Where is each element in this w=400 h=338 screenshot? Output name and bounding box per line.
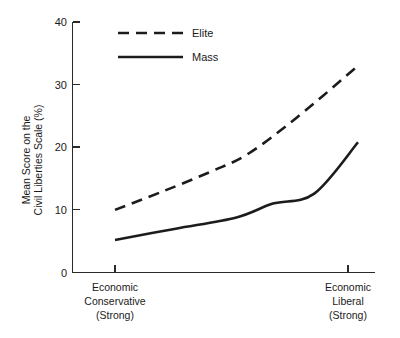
y-axis-ticks: 40 30 20 10 0 bbox=[55, 16, 80, 279]
chart-series-group bbox=[115, 66, 358, 240]
x-category-left-line3: (Strong) bbox=[96, 309, 134, 321]
line-chart: 40 30 20 10 0 Mean Score on the Civil Li… bbox=[0, 0, 400, 338]
y-tick-label-10: 10 bbox=[55, 204, 67, 216]
y-tick-label-30: 30 bbox=[55, 79, 67, 91]
y-tick-label-20: 20 bbox=[55, 141, 67, 153]
legend-label-elite: Elite bbox=[192, 27, 213, 39]
x-category-left-line2: Conservative bbox=[84, 295, 145, 307]
chart-legend: Elite Mass bbox=[118, 27, 219, 63]
x-axis-ticks bbox=[115, 265, 348, 273]
x-category-right-line1: Economic bbox=[325, 281, 371, 293]
x-category-right-line3: (Strong) bbox=[329, 309, 367, 321]
legend-label-mass: Mass bbox=[192, 51, 219, 63]
y-tick-label-0: 0 bbox=[61, 267, 67, 279]
y-tick-label-40: 40 bbox=[55, 16, 67, 28]
chart-axes bbox=[73, 22, 376, 273]
x-category-left-line1: Economic bbox=[92, 281, 138, 293]
y-axis-title-line1: Mean Score on the bbox=[20, 115, 32, 204]
x-category-label-right: Economic Liberal (Strong) bbox=[325, 281, 371, 321]
y-axis-title: Mean Score on the Civil Liberties Scale … bbox=[20, 105, 44, 216]
y-axis-title-line2: Civil Liberties Scale (%) bbox=[32, 105, 44, 216]
series-line-mass bbox=[115, 142, 358, 240]
x-category-label-left: Economic Conservative (Strong) bbox=[84, 281, 145, 321]
x-category-right-line2: Liberal bbox=[332, 295, 364, 307]
